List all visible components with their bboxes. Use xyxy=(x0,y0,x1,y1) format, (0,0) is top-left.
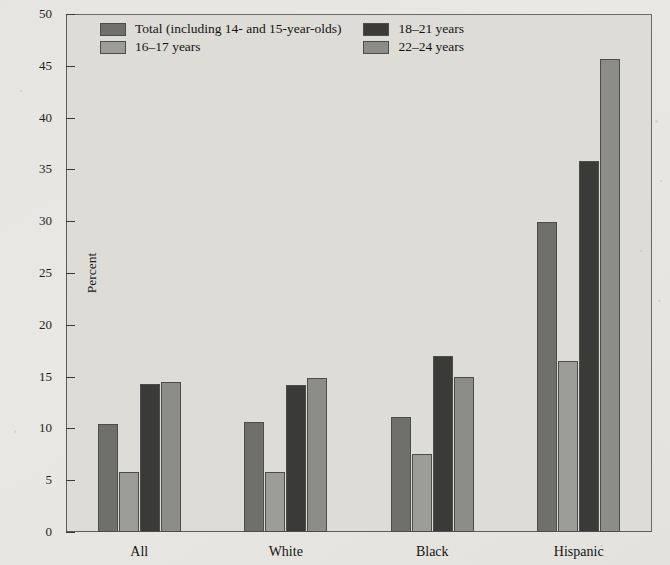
paper-speck xyxy=(658,300,661,302)
y-axis-tick xyxy=(66,377,75,378)
bar xyxy=(558,361,578,532)
x-axis-tick-label: Black xyxy=(416,544,449,560)
bar xyxy=(119,472,139,532)
y-axis-tick xyxy=(66,118,75,119)
legend-label: 22–24 years xyxy=(398,40,464,55)
y-axis-tick xyxy=(66,480,75,481)
y-axis-tick-label: 30 xyxy=(39,213,52,229)
bar xyxy=(265,472,285,532)
y-axis-tick xyxy=(66,428,75,429)
x-axis-tick-label: All xyxy=(130,544,148,560)
y-axis-tick-label: 5 xyxy=(46,472,53,488)
legend-swatch xyxy=(363,23,389,36)
bar xyxy=(454,377,474,532)
y-axis-tick-label: 25 xyxy=(39,265,52,281)
plot-area xyxy=(66,14,652,532)
paper-speck xyxy=(660,180,662,182)
paper-speck xyxy=(655,120,658,123)
legend-item: 22–24 years xyxy=(363,40,464,55)
paper-speck xyxy=(600,545,603,547)
bar xyxy=(307,378,327,532)
y-axis-tick-label: 0 xyxy=(46,524,53,540)
legend-label: 16–17 years xyxy=(135,40,201,55)
y-axis-tick-label: 40 xyxy=(39,110,52,126)
y-axis-tick xyxy=(66,66,75,67)
legend-item: 18–21 years xyxy=(363,22,464,37)
bar xyxy=(412,454,432,532)
legend-item: Total (including 14- and 15-year-olds) xyxy=(100,22,341,37)
bar xyxy=(391,417,411,532)
y-axis-title: Percent xyxy=(84,253,100,293)
bar xyxy=(98,424,118,532)
bar xyxy=(537,222,557,532)
legend-swatch xyxy=(100,41,126,54)
x-axis-tick-label: Hispanic xyxy=(554,544,604,560)
x-axis-tick-label: White xyxy=(269,544,303,560)
bar-group xyxy=(506,14,653,532)
bar-group xyxy=(213,14,360,532)
y-axis-tick xyxy=(66,273,75,274)
legend-swatch xyxy=(100,23,126,36)
y-axis-tick-label: 20 xyxy=(39,317,52,333)
y-axis-tick-label: 35 xyxy=(39,161,52,177)
bar xyxy=(140,384,160,532)
bars-layer xyxy=(66,14,652,532)
y-axis-tick-label: 50 xyxy=(39,6,52,22)
paper-speck xyxy=(20,90,22,92)
legend-item: 16–17 years xyxy=(100,40,341,55)
bar xyxy=(433,356,453,532)
y-axis-tick-label: 15 xyxy=(39,369,52,385)
bar xyxy=(579,161,599,532)
y-axis-tick xyxy=(66,532,75,533)
y-axis-tick xyxy=(66,14,75,15)
chart-legend: Total (including 14- and 15-year-olds)18… xyxy=(96,18,470,59)
chart-figure: Percent 05101520253035404550 Total (incl… xyxy=(0,0,670,565)
y-axis-tick-label: 10 xyxy=(39,420,52,436)
paper-speck xyxy=(14,430,16,433)
y-axis-tick xyxy=(66,221,75,222)
bar xyxy=(244,422,264,532)
bar xyxy=(286,385,306,532)
bar xyxy=(161,382,181,532)
legend-swatch xyxy=(363,41,389,54)
legend-label: Total (including 14- and 15-year-olds) xyxy=(135,22,341,37)
y-axis-tick-label: 45 xyxy=(39,58,52,74)
bar-group xyxy=(359,14,506,532)
paper-speck xyxy=(640,250,642,252)
y-axis-tick xyxy=(66,169,75,170)
y-axis-tick xyxy=(66,325,75,326)
bar xyxy=(600,59,620,532)
legend-label: 18–21 years xyxy=(398,22,464,37)
